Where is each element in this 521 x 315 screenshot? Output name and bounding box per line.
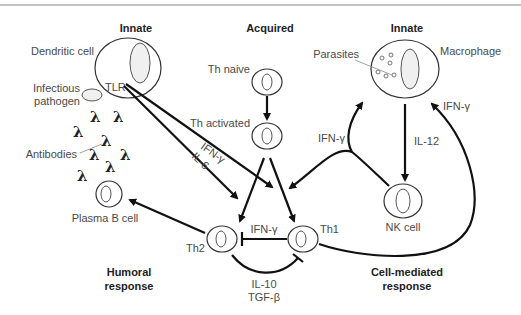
pathogen-shape [82,89,102,101]
header-innate-right: Innate [391,22,423,34]
parasite-icon [380,56,384,60]
antibody-icon: λ [101,132,112,150]
antibody-icon: λ [73,123,84,141]
ifn-gamma-th1-th2-label: IFN-γ [251,223,278,235]
antibodies-label: Antibodies [26,148,78,160]
tlr-label: TLR [105,81,126,93]
antibody-icon: λ [105,158,116,176]
header-cell-mediated-2: response [383,280,432,292]
antibody-icon: λ [90,108,101,126]
ifn-gamma-mac-label: IFN-γ [443,100,470,112]
tgf-beta-label: TGF-β [248,291,280,303]
parasite-icon [388,61,392,65]
plasma-b-cell-label: Plasma B cell [72,212,139,224]
th2-cell [207,226,237,252]
header-humoral-1: Humoral [107,266,152,278]
antibodies-group: λ λ λ λ λ λ λ λ [73,108,131,185]
antibody-icon: λ [120,146,131,164]
macrophage-label: Macrophage [440,45,501,57]
pathogen-label-1: Infectious [33,82,81,94]
nk-cell [384,184,422,218]
th2-label: Th2 [186,242,205,254]
th1-cell [288,226,318,252]
header-innate-left: Innate [120,22,152,34]
antibody-icon: λ [113,108,124,126]
parasite-icon [389,53,393,57]
dendritic-cell-label: Dendritic cell [31,45,94,57]
parasite-icon [392,73,396,77]
il10-label: IL-10 [251,278,276,290]
header-humoral-2: response [105,280,154,292]
antibody-icon: λ [77,167,88,185]
nk-cell-label: NK cell [386,221,421,233]
inhibit-th2-to-th1 [232,255,298,273]
header-acquired: Acquired [246,22,294,34]
parasite-icon [384,74,388,78]
plasma-b-cell [96,181,122,207]
immune-response-diagram: Innate Acquired Innate Humoral response … [0,0,521,315]
il12-label: IL-12 [414,135,439,147]
arrow-th2-to-plasma-b [130,200,205,233]
th-naive-cell [252,69,282,95]
arrow-tlr-ifn-to-th1 [126,84,272,187]
macrophage-cell [371,40,439,98]
arrow-th1-ifn-to-macrophage [319,104,474,256]
arrow-activated-to-th1 [270,158,294,221]
arrow-tlr-il6-to-th2 [124,86,237,198]
arrow-nk-ifn-to-th1 [290,151,352,188]
th-activated-cell [252,123,282,149]
parasites-label: Parasites [313,48,359,60]
arrow-nk-ifn-to-macrophage [348,103,389,186]
pathogen-label-2: pathogen [34,95,80,107]
parasite-icon [376,70,380,74]
ifn-gamma-nk-label: IFN-γ [318,132,345,144]
th-naive-label: Th naive [208,63,250,75]
th-activated-label: Th activated [190,117,250,129]
th1-label: Th1 [320,223,339,235]
header-cell-mediated-1: Cell-mediated [371,266,443,278]
